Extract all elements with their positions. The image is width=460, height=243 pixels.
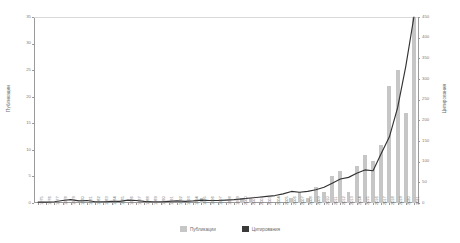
right-tick-mark bbox=[418, 100, 420, 101]
x-tick-mark bbox=[136, 203, 137, 205]
x-tick-label: 2001 bbox=[252, 196, 256, 205]
right-tick-label: 300 bbox=[422, 77, 440, 81]
x-tick-mark bbox=[210, 203, 211, 205]
x-tick-label: 1994 bbox=[195, 196, 199, 205]
right-tick-mark bbox=[418, 182, 420, 183]
x-tick-mark bbox=[87, 203, 88, 205]
left-axis-title: Публикации bbox=[6, 69, 11, 129]
legend-item-citations: Цитирования bbox=[242, 226, 280, 232]
right-tick-label: 0 bbox=[422, 201, 440, 205]
x-tick-label: 1989 bbox=[154, 196, 158, 205]
x-tick-mark bbox=[381, 203, 382, 205]
x-tick-label: 2016 bbox=[375, 196, 379, 205]
x-tick-label: 1983 bbox=[105, 196, 109, 205]
legend-item-publications: Публикации bbox=[180, 226, 216, 232]
x-tick-mark bbox=[46, 203, 47, 205]
x-tick-mark bbox=[185, 203, 186, 205]
x-tick-mark bbox=[128, 203, 129, 205]
left-tick-label: 15 bbox=[15, 121, 31, 125]
x-tick-label: 1975 bbox=[40, 196, 44, 205]
x-tick-mark bbox=[389, 203, 390, 205]
x-tick-mark bbox=[71, 203, 72, 205]
x-tick-mark bbox=[251, 203, 252, 205]
x-tick-mark bbox=[349, 203, 350, 205]
x-tick-mark bbox=[112, 203, 113, 205]
x-tick-label: 1996 bbox=[211, 196, 215, 205]
right-tick-label: 150 bbox=[422, 139, 440, 143]
right-tick-mark bbox=[418, 120, 420, 121]
x-tick-mark bbox=[308, 203, 309, 205]
x-tick-label: 2008 bbox=[309, 196, 313, 205]
left-tick-label: 5 bbox=[15, 174, 31, 178]
left-tick-label: 20 bbox=[15, 95, 31, 99]
x-tick-mark bbox=[79, 203, 80, 205]
left-tick-label: 0 bbox=[15, 201, 31, 205]
x-tick-mark bbox=[414, 203, 415, 205]
x-tick-label: 2002 bbox=[260, 196, 264, 205]
x-tick-label: 2019 bbox=[399, 196, 403, 205]
right-tick-label: 250 bbox=[422, 97, 440, 101]
x-tick-mark bbox=[291, 203, 292, 205]
x-tick-mark bbox=[398, 203, 399, 205]
x-tick-mark bbox=[103, 203, 104, 205]
x-tick-mark bbox=[340, 203, 341, 205]
right-axis-title: Цитирования bbox=[442, 69, 447, 129]
x-tick-label: 2003 bbox=[268, 196, 272, 205]
x-tick-label: 1977 bbox=[56, 196, 60, 205]
x-tick-mark bbox=[357, 203, 358, 205]
x-tick-mark bbox=[373, 203, 374, 205]
x-tick-label: 1993 bbox=[187, 196, 191, 205]
chart-legend: Публикации Цитирования bbox=[0, 226, 460, 232]
right-axis-line bbox=[418, 17, 419, 203]
right-tick-label: 200 bbox=[422, 118, 440, 122]
x-tick-mark bbox=[365, 203, 366, 205]
left-tick-label: 10 bbox=[15, 148, 31, 152]
x-tick-mark bbox=[177, 203, 178, 205]
x-tick-label: 1988 bbox=[146, 196, 150, 205]
right-tick-mark bbox=[418, 162, 420, 163]
x-tick-label: 2015 bbox=[366, 196, 370, 205]
right-tick-mark bbox=[418, 38, 420, 39]
right-tick-mark bbox=[418, 17, 420, 18]
x-tick-mark bbox=[120, 203, 121, 205]
x-tick-label: 1987 bbox=[138, 196, 142, 205]
x-tick-label: 2006 bbox=[293, 196, 297, 205]
x-tick-label: 1982 bbox=[97, 196, 101, 205]
x-tick-label: 1985 bbox=[121, 196, 125, 205]
x-tick-label: 2007 bbox=[301, 196, 305, 205]
left-tick-label: 30 bbox=[15, 41, 31, 45]
x-tick-mark bbox=[218, 203, 219, 205]
x-tick-label: 2013 bbox=[350, 196, 354, 205]
x-tick-label: 1998 bbox=[228, 196, 232, 205]
right-tick-mark bbox=[418, 79, 420, 80]
x-tick-mark bbox=[144, 203, 145, 205]
legend-label-citations: Цитирования bbox=[252, 227, 280, 232]
x-tick-label: 1978 bbox=[64, 196, 68, 205]
x-tick-mark bbox=[275, 203, 276, 205]
right-tick-label: 50 bbox=[422, 180, 440, 184]
x-tick-label: 2017 bbox=[383, 196, 387, 205]
left-tick-label: 25 bbox=[15, 68, 31, 72]
right-tick-mark bbox=[418, 58, 420, 59]
x-tick-label: 1990 bbox=[162, 196, 166, 205]
x-tick-mark bbox=[300, 203, 301, 205]
legend-label-publications: Публикации bbox=[190, 227, 216, 232]
x-tick-label: 2005 bbox=[285, 196, 289, 205]
right-tick-label: 450 bbox=[422, 15, 440, 19]
x-tick-mark bbox=[234, 203, 235, 205]
x-tick-label: 2012 bbox=[342, 196, 346, 205]
x-tick-label: 1979 bbox=[72, 196, 76, 205]
x-tick-label: 2020 bbox=[407, 196, 411, 205]
right-tick-label: 100 bbox=[422, 159, 440, 163]
x-tick-mark bbox=[316, 203, 317, 205]
x-tick-label: 1999 bbox=[236, 196, 240, 205]
publications-citations-chart: Публикации Цитирования 05101520253035 05… bbox=[0, 0, 460, 243]
left-tick-label: 35 bbox=[15, 15, 31, 19]
x-tick-label: 1995 bbox=[203, 196, 207, 205]
x-tick-label: 2000 bbox=[244, 196, 248, 205]
x-tick-mark bbox=[226, 203, 227, 205]
x-tick-mark bbox=[54, 203, 55, 205]
citations-line bbox=[34, 17, 418, 203]
legend-swatch-publications-icon bbox=[180, 226, 187, 232]
x-tick-label: 1984 bbox=[113, 196, 117, 205]
